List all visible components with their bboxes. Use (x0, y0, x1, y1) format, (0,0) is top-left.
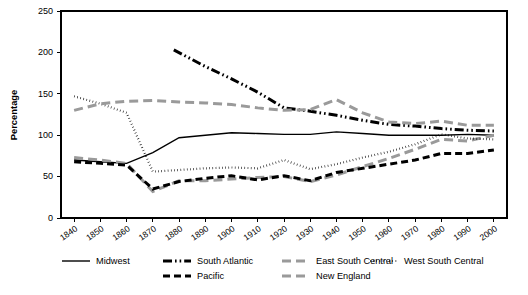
x-tick-label: 1910 (242, 223, 264, 242)
x-tick-label: 1840 (58, 223, 80, 242)
y-tick-label: 200 (38, 47, 53, 57)
series-line-new-england (74, 100, 494, 126)
chart-canvas: 050100150200250 184018501860187018801890… (0, 0, 528, 295)
x-axis-ticks: 1840185018601870188018901900191019201930… (58, 218, 499, 243)
y-axis-title: Percentage (8, 90, 19, 141)
x-tick-label: 2000 (478, 223, 500, 242)
x-tick-label: 1950 (346, 223, 368, 242)
x-tick-label: 1880 (163, 223, 185, 242)
legend-label-south-atlantic: South Atlantic (197, 256, 254, 266)
series-line-east-south-central (74, 135, 494, 191)
y-tick-label: 0 (48, 213, 53, 223)
y-tick-label: 50 (43, 171, 53, 181)
y-axis-ticks: 050100150200250 (38, 6, 61, 223)
x-tick-label: 1860 (110, 223, 132, 242)
x-tick-label: 1850 (84, 223, 106, 242)
x-tick-label: 1980 (425, 223, 447, 242)
x-tick-label: 1960 (373, 223, 395, 242)
series-lines (74, 50, 494, 192)
legend-label-new-england: New England (316, 271, 371, 281)
legend-label-pacific: Pacific (197, 271, 224, 281)
plot-border (61, 11, 507, 218)
legend-label-midwest: Midwest (96, 256, 130, 266)
line-chart: 050100150200250 184018501860187018801890… (0, 0, 528, 295)
y-tick-label: 250 (38, 6, 53, 16)
x-tick-label: 1900 (215, 223, 237, 242)
x-tick-label: 1890 (189, 223, 211, 242)
plot-frame (61, 11, 507, 218)
x-tick-label: 1930 (294, 223, 316, 242)
x-tick-label: 1870 (137, 223, 159, 242)
x-tick-label: 1940 (320, 223, 342, 242)
x-tick-label: 1990 (451, 223, 473, 242)
series-line-midwest (74, 132, 494, 163)
y-tick-label: 150 (38, 89, 53, 99)
legend-label-west-south-central: West South Central (404, 256, 484, 266)
y-tick-label: 100 (38, 130, 53, 140)
series-line-south-atlantic (174, 50, 494, 131)
x-tick-label: 1920 (268, 223, 290, 242)
series-line-pacific (74, 150, 494, 189)
x-tick-label: 1970 (399, 223, 421, 242)
legend-label-east-south-central: East South Central (316, 256, 393, 266)
chart-legend: MidwestSouth AtlanticEast South CentralW… (62, 256, 484, 281)
